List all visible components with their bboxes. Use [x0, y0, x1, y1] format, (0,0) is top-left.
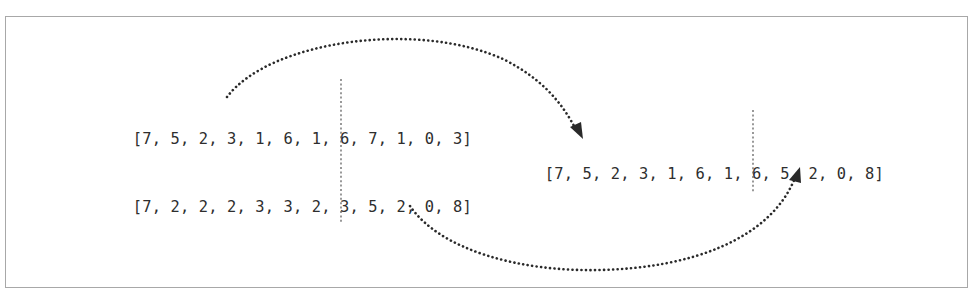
arrowhead-top-icon — [570, 122, 583, 139]
arrow-bottom-arc — [410, 178, 795, 270]
arrow-top-arc — [227, 39, 574, 126]
diagram-graphics — [0, 0, 976, 297]
arrowhead-bottom-icon — [789, 167, 801, 183]
